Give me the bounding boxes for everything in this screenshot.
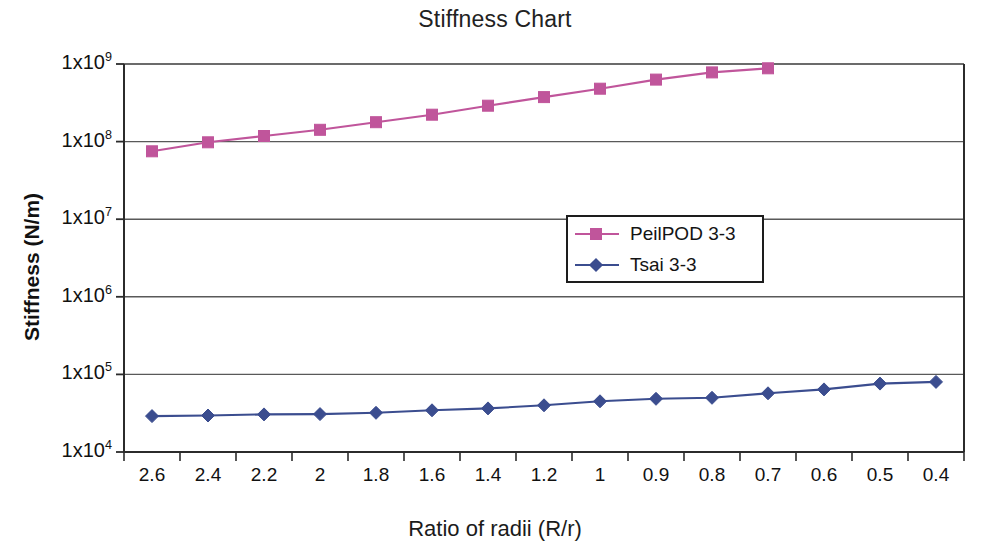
x-axis-tick-label: 1.4 — [460, 465, 516, 484]
x-axis-tick-label: 2.6 — [124, 465, 180, 484]
y-axis-tick-label: 1x105 — [14, 362, 112, 382]
series-marker-square — [315, 124, 326, 135]
y-axis-tick-label: 1x107 — [14, 207, 112, 227]
series-marker-diamond — [762, 387, 775, 400]
x-axis-tick-label: 0.6 — [796, 465, 852, 484]
series-marker-square — [483, 100, 494, 111]
x-axis-tick-label: 2.4 — [180, 465, 236, 484]
x-axis-tick-label: 1.8 — [348, 465, 404, 484]
series-marker-square — [595, 83, 606, 94]
axis-lines — [124, 64, 964, 452]
series-marker-diamond — [650, 392, 663, 405]
series-marker-diamond — [426, 404, 439, 417]
series-marker-diamond — [202, 409, 215, 422]
series-marker-square — [539, 92, 550, 103]
series-marker-square — [203, 137, 214, 148]
y-axis-tick-label: 1x104 — [14, 440, 112, 460]
series-marker-diamond — [482, 402, 495, 415]
x-axis-tick-label: 0.9 — [628, 465, 684, 484]
x-axis-tick-label: 2 — [292, 465, 348, 484]
series-marker-diamond — [258, 408, 271, 421]
series-marker-diamond — [314, 408, 327, 421]
series-marker-square — [147, 146, 158, 157]
series-marker-diamond — [930, 375, 943, 388]
series-marker-square — [763, 63, 774, 74]
series-marker-square — [371, 117, 382, 128]
x-axis-ticks — [124, 452, 964, 461]
chart-legend: PeilPOD 3-3 Tsai 3-3 — [566, 215, 764, 283]
series-marker-diamond — [818, 383, 831, 396]
x-axis-tick-label: 0.4 — [908, 465, 964, 484]
series-marker-diamond — [146, 410, 159, 423]
x-axis-tick-label: 0.7 — [740, 465, 796, 484]
x-axis-tick-label: 1.2 — [516, 465, 572, 484]
y-axis-ticks — [116, 64, 124, 452]
series-marker-diamond — [370, 406, 383, 419]
gridlines — [124, 64, 964, 452]
series-marker-diamond — [874, 377, 887, 390]
stiffness-chart: Stiffness Chart Stiffness (N/m) Ratio of… — [0, 0, 990, 553]
data-series-layer — [146, 63, 943, 423]
x-axis-tick-label: 0.8 — [684, 465, 740, 484]
x-axis-tick-label: 0.5 — [852, 465, 908, 484]
legend-label-series-1: Tsai 3-3 — [630, 254, 697, 276]
y-axis-tick-label: 1x106 — [14, 285, 112, 305]
legend-item-series-1: Tsai 3-3 — [568, 250, 762, 280]
legend-label-series-0: PeilPOD 3-3 — [630, 223, 736, 245]
series-marker-square — [427, 109, 438, 120]
legend-swatch-diamond — [575, 255, 619, 275]
legend-swatch-square — [575, 224, 619, 244]
series-marker-diamond — [706, 391, 719, 404]
series-marker-diamond — [538, 399, 551, 412]
series-marker-diamond — [594, 395, 607, 408]
x-axis-tick-label: 2.2 — [236, 465, 292, 484]
series-marker-square — [259, 131, 270, 142]
x-axis-tick-label: 1.6 — [404, 465, 460, 484]
y-axis-tick-label: 1x108 — [14, 130, 112, 150]
x-axis-tick-label: 1 — [572, 465, 628, 484]
y-axis-tick-label: 1x109 — [14, 52, 112, 72]
series-line-0 — [152, 68, 768, 151]
legend-item-series-0: PeilPOD 3-3 — [568, 219, 762, 249]
series-marker-square — [707, 67, 718, 78]
series-marker-square — [651, 74, 662, 85]
